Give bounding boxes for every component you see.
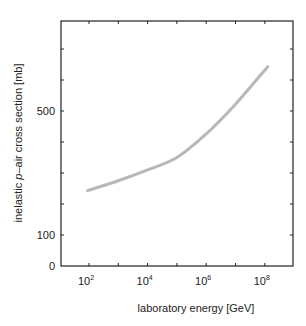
x-tick-label: 102 — [78, 274, 94, 287]
y-tick-label: 0 — [49, 260, 55, 272]
plot-frame — [61, 21, 293, 266]
cross-section-curve — [88, 67, 268, 191]
x-axis-tick-labels: 102104106108 — [78, 274, 270, 287]
x-tick-label: 108 — [254, 274, 270, 287]
y-tick-label: 500 — [37, 105, 55, 117]
y-axis-title: inelastic p–air cross section [mb] — [12, 64, 24, 223]
x-tick-label: 104 — [137, 274, 153, 287]
y-axis-tick-labels: 0100500 — [37, 105, 55, 272]
cross-section-chart: 102104106108 0100500 laboratory energy [… — [0, 0, 306, 326]
y-tick-label: 100 — [37, 229, 55, 241]
x-axis-ticks — [89, 21, 265, 266]
x-tick-label: 106 — [195, 274, 211, 287]
x-axis-title: laboratory energy [GeV] — [138, 302, 255, 314]
